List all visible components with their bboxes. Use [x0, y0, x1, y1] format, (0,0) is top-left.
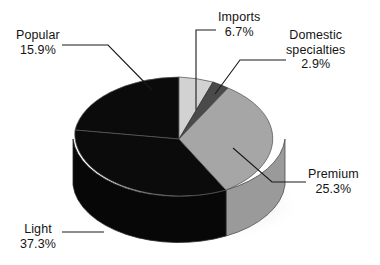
slice-label-premium: Premium 25.3% — [308, 167, 359, 196]
slice-label-popular-name: Popular — [16, 28, 60, 42]
slice-label-imports: Imports 6.7% — [218, 10, 260, 39]
slice-label-popular: Popular 15.9% — [16, 28, 60, 57]
slice-label-popular-pct: 15.9% — [16, 43, 60, 58]
slice-label-domestic-name-line2: specialties — [286, 43, 345, 58]
slice-label-premium-name: Premium — [308, 167, 359, 181]
slice-label-light-name: Light — [24, 222, 52, 236]
slice-label-imports-pct: 6.7% — [218, 25, 260, 40]
slice-label-light-pct: 37.3% — [20, 237, 56, 252]
slice-label-premium-pct: 25.3% — [308, 182, 359, 197]
slice-label-domestic-name-line1: Domestic — [289, 28, 342, 42]
slice-label-imports-name: Imports — [218, 10, 260, 24]
slice-popular — [75, 77, 179, 139]
pie-chart: Popular 15.9% Imports 6.7% Domestic spec… — [0, 0, 380, 265]
slice-label-light: Light 37.3% — [20, 222, 56, 251]
slice-label-domestic-pct: 2.9% — [286, 57, 345, 72]
slice-label-domestic-specialties: Domestic specialties 2.9% — [286, 28, 345, 72]
